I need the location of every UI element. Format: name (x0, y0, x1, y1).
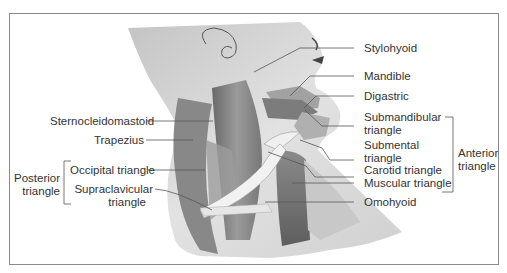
label-occipital-triangle: Occipital triangle (70, 164, 155, 177)
label-stylohyoid: Stylohyoid (364, 42, 417, 55)
label-anterior-triangle-line1: Anterior (458, 147, 498, 160)
neck-anatomy-illustration (0, 0, 507, 273)
label-mandible: Mandible (364, 70, 411, 83)
label-digastric: Digastric (364, 90, 409, 103)
label-supraclavicular-line2: triangle (60, 196, 146, 209)
label-supraclavicular-line1: Supraclavicular (60, 183, 153, 196)
label-trapezius: Trapezius (90, 134, 144, 147)
label-posterior-triangle-line1: Posterior (10, 172, 60, 185)
label-muscular-triangle: Muscular triangle (364, 177, 452, 190)
label-omohyoid: Omohyoid (364, 196, 416, 209)
label-sternocleidomastoid: Sternocleidomastoid (50, 115, 145, 128)
label-posterior-triangle-line2: triangle (10, 185, 60, 198)
label-submandibular-line1: Submandibular (364, 111, 441, 124)
label-submental-line1: Submental (364, 139, 419, 152)
label-submandibular-line2: triangle (364, 124, 402, 137)
label-carotid-triangle: Carotid triangle (364, 164, 442, 177)
label-anterior-triangle-line2: triangle (458, 160, 496, 173)
